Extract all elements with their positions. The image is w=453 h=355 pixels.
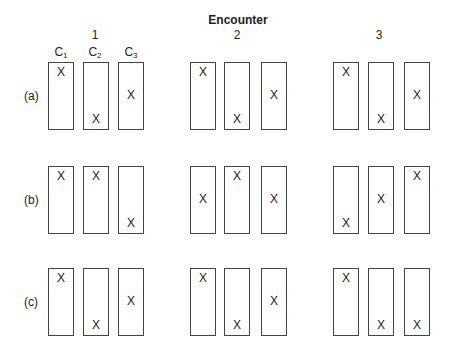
column-label-c3: C3 [124,45,137,60]
x-mark-bottom: X [377,113,385,125]
x-mark-bottom: X [127,217,135,229]
x-mark-mid: X [127,89,135,101]
column-label-base: C [124,45,133,59]
x-mark-top: X [57,272,65,284]
x-mark-top: X [199,272,207,284]
column-label-subscript: 1 [63,51,67,60]
column-label-subscript: 2 [97,51,101,60]
x-mark-bottom: X [233,113,241,125]
column-label-subscript: 3 [133,51,137,60]
x-mark-bottom: X [92,113,100,125]
x-mark-mid: X [377,193,385,205]
x-mark-bottom: X [233,319,241,331]
column-label-c1: C1 [54,45,67,60]
x-mark-bottom: X [342,217,350,229]
column-label-c2: C2 [88,45,101,60]
x-mark-top: X [92,170,100,182]
column-label-base: C [88,45,97,59]
x-mark-mid: X [199,193,207,205]
x-mark-top: X [342,272,350,284]
encounter-number-3: 3 [376,28,383,42]
x-mark-top: X [233,170,241,182]
x-mark-top: X [413,170,421,182]
x-mark-bottom: X [413,319,421,331]
x-mark-bottom: X [92,319,100,331]
x-mark-mid: X [270,89,278,101]
x-mark-mid: X [270,295,278,307]
x-mark-top: X [342,66,350,78]
x-mark-mid: X [127,295,135,307]
x-mark-bottom: X [377,319,385,331]
row-label-b: (b) [24,193,39,207]
diagram-title: Encounter [208,13,267,27]
x-mark-mid: X [270,193,278,205]
encounter-number-2: 2 [234,28,241,42]
column-label-base: C [54,45,63,59]
row-label-a: (a) [24,89,39,103]
x-mark-top: X [57,66,65,78]
x-mark-top: X [57,170,65,182]
x-mark-mid: X [413,89,421,101]
row-label-c: (c) [24,295,38,309]
x-mark-top: X [199,66,207,78]
encounter-number-1: 1 [92,28,99,42]
